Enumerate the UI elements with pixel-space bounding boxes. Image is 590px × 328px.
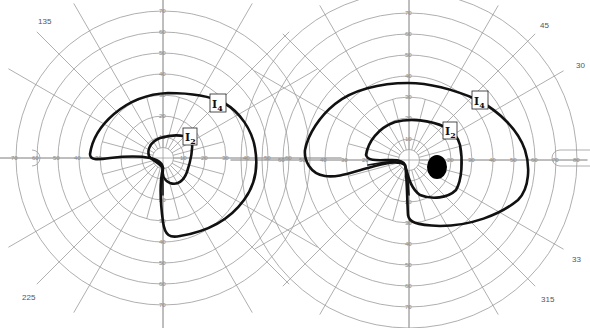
tick-label: 50: [405, 52, 412, 58]
right-isopter-i4: [305, 83, 528, 226]
grid-meridian: [173, 142, 224, 156]
meridian-label: 45: [540, 21, 549, 30]
tick-label: 50: [159, 260, 166, 266]
tick-label: 40: [159, 239, 166, 245]
grid-meridian: [102, 142, 153, 156]
tick-label: 40: [159, 71, 166, 77]
tick-label: 60: [159, 29, 166, 35]
tick-label: 60: [531, 157, 538, 163]
tick-label: 70: [11, 155, 18, 161]
tick-label: 50: [510, 157, 517, 163]
meridian-label: 225: [22, 293, 36, 302]
grid-meridian: [283, 34, 402, 153]
grid-meridian: [166, 168, 180, 219]
grid-meridian: [412, 99, 426, 150]
tick-label: 30: [405, 94, 412, 100]
tick-label: 60: [278, 157, 285, 163]
grid-meridian: [348, 144, 399, 158]
meridian-label: 135: [38, 17, 52, 26]
perimetry-grid: 7060504030102030405060102030405060701020…: [0, 0, 590, 328]
grid-meridian: [170, 165, 289, 284]
grid-meridian: [166, 97, 180, 148]
tick-label: 20: [201, 155, 208, 161]
tick-label: 50: [159, 50, 166, 56]
tick-label: 10: [180, 155, 187, 161]
grid-meridian: [393, 99, 407, 150]
tick-label: 40: [405, 73, 412, 79]
tick-label: 70: [405, 304, 412, 310]
tick-label: 40: [320, 157, 327, 163]
tick-label: 80: [573, 157, 580, 163]
tick-label: 70: [159, 8, 166, 14]
tick-label: 30: [468, 157, 475, 163]
tick-label: 40: [405, 241, 412, 247]
meridian-label: 33: [572, 255, 581, 264]
grid-meridian: [393, 170, 407, 221]
meridian-label: 30: [576, 61, 585, 70]
tick-label: 30: [341, 157, 348, 163]
left-eye-isopters: I4 I2: [90, 93, 256, 237]
tick-label: 60: [405, 283, 412, 289]
tick-label: 70: [405, 10, 412, 16]
tick-label: 40: [74, 155, 81, 161]
tick-label: 60: [159, 281, 166, 287]
tick-label: 50: [53, 155, 60, 161]
visual-field-chart: 7060504030102030405060102030405060701020…: [0, 0, 590, 328]
right-eye-isopters: I4 I2: [305, 83, 528, 226]
tick-label: 20: [159, 113, 166, 119]
tick-label: 50: [405, 262, 412, 268]
grid-meridian: [173, 161, 224, 175]
tick-label: 40: [489, 157, 496, 163]
grid-meridian: [102, 161, 153, 175]
left-isopter-i4: [90, 93, 256, 237]
tick-label: 70: [159, 302, 166, 308]
tick-label: 60: [405, 31, 412, 37]
tick-label: 30: [222, 155, 229, 161]
blind-spot-scotoma: [427, 155, 447, 179]
tick-label: 60: [32, 155, 39, 161]
grid-meridian: [283, 167, 402, 286]
grid-meridian: [37, 165, 156, 284]
tick-label: 10: [405, 136, 412, 142]
tick-label: 20: [447, 157, 454, 163]
meridian-label: 315: [541, 295, 555, 304]
